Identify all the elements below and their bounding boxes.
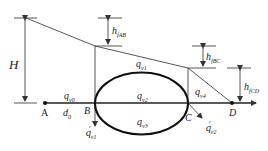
qv0-sub: v0 (69, 97, 75, 103)
qpv1-sub: v1 (91, 134, 97, 140)
label-qv3: qv3 (137, 117, 148, 129)
hfcd-sub: fCD (249, 88, 259, 94)
label-node-d: D (229, 108, 236, 118)
label-H: H (9, 58, 18, 71)
qpv1-prime: ′ (89, 125, 91, 134)
label-hfbc: hfBC (206, 52, 220, 64)
qv1-sub: v1 (141, 65, 147, 71)
hfbc-sub: fBC (211, 58, 220, 64)
node-d-dot (230, 101, 234, 105)
qv3-sub: v3 (142, 123, 148, 129)
energy-grade-line (26, 18, 188, 68)
pipe-network-diagram: H hfAB hfBC hfCD qv0 qv1 qv2 qv3 qv4 q′v… (0, 0, 268, 151)
hfab-sub: fAB (117, 32, 126, 38)
label-q-prime-v1: q′v1 (86, 126, 96, 140)
label-q-prime-v2: q′v2 (206, 121, 216, 135)
qv2-sub: v2 (142, 97, 148, 103)
label-node-c: C (185, 113, 192, 123)
label-hfab: hfAB (112, 26, 126, 38)
label-node-a: A (41, 108, 48, 118)
qpv2-sub: v2 (211, 129, 217, 135)
label-qv4: qv4 (195, 87, 206, 99)
label-qv1: qv1 (136, 59, 147, 71)
label-hfcd: hfCD (244, 82, 259, 94)
qv4-sub: v4 (200, 93, 206, 99)
label-qv2: qv2 (137, 91, 148, 103)
d0-sub: 0 (68, 114, 71, 120)
label-d0: d0 (63, 108, 71, 120)
diagram-lines (0, 0, 268, 151)
label-qv0: qv0 (64, 91, 75, 103)
qpv2-prime: ′ (209, 120, 211, 129)
node-a-dot (43, 101, 47, 105)
label-node-b: B (84, 106, 90, 116)
